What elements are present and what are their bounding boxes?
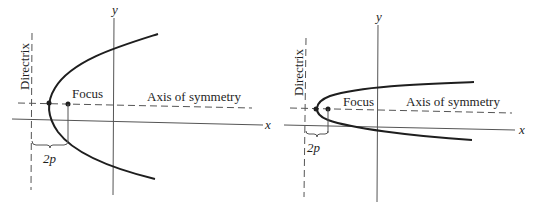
distance-label: 2p bbox=[307, 140, 321, 155]
y-axis bbox=[377, 25, 378, 202]
directrix-label: Directrix bbox=[291, 49, 306, 96]
vertex-point bbox=[314, 107, 319, 112]
y-axis-label: y bbox=[374, 9, 382, 24]
parabola-curve bbox=[317, 82, 474, 140]
y-axis-label: y bbox=[110, 2, 118, 17]
distance-brace bbox=[306, 131, 328, 137]
parabola-curve bbox=[49, 34, 158, 179]
x-axis-label: x bbox=[518, 122, 525, 137]
focus-label: Focus bbox=[343, 94, 374, 109]
right-diagram: y x Directrix Axis of symmetry Focus 2p bbox=[284, 9, 525, 202]
distance-label: 2p bbox=[43, 151, 57, 166]
left-diagram: y x Directrix Axis of symmetry Focus 2p bbox=[12, 2, 271, 195]
focus-label: Focus bbox=[72, 86, 103, 101]
axis-of-symmetry-label: Axis of symmetry bbox=[406, 94, 500, 109]
parabola-figure: y x Directrix Axis of symmetry Focus 2p … bbox=[0, 0, 541, 208]
x-axis-label: x bbox=[264, 117, 271, 132]
y-axis bbox=[113, 18, 114, 195]
distance-brace bbox=[32, 141, 68, 148]
axis-of-symmetry-label: Axis of symmetry bbox=[147, 89, 241, 104]
vertex-point bbox=[47, 101, 52, 106]
x-axis bbox=[12, 119, 263, 125]
x-axis bbox=[284, 125, 515, 130]
directrix-label: Directrix bbox=[17, 43, 32, 90]
